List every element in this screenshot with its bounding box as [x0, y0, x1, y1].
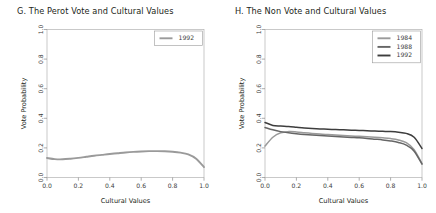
curve-1992	[47, 151, 204, 167]
panel-g-plot: 0.00.20.40.60.81.0 0.00.20.40.60.81.0 Cu…	[0, 0, 218, 213]
figure-container: G. The Perot Vote and Cultural Values 0.…	[0, 0, 436, 213]
x-tick-label: 0.6	[136, 182, 146, 189]
panel-h-ylabel: Vote Probability	[238, 78, 246, 130]
panel-h-xlabel: Cultural Values	[319, 197, 369, 205]
x-tick-label: 0.2	[74, 182, 84, 189]
legend-label-1988: 1988	[397, 43, 413, 50]
y-tick-label: 0.4	[255, 113, 262, 123]
legend-label-1984: 1984	[397, 34, 413, 41]
panel-g-x-ticks: 0.00.20.40.60.81.0	[42, 178, 209, 190]
x-tick-label: 0.4	[323, 182, 333, 189]
panel-h-plot: 0.00.20.40.60.81.0 0.00.20.40.60.81.0 Cu…	[218, 0, 436, 213]
panel-g: G. The Perot Vote and Cultural Values 0.…	[0, 0, 218, 213]
y-tick-label: 0.2	[37, 143, 44, 153]
legend-label-1992: 1992	[179, 34, 195, 41]
panel-h-y-ticks: 0.00.20.40.60.81.0	[255, 25, 265, 183]
panel-h-x-ticks: 0.00.20.40.60.81.0	[260, 178, 427, 190]
y-tick-label: 0.6	[255, 84, 262, 94]
y-tick-label: 0.6	[37, 84, 44, 94]
curve-1988	[265, 127, 422, 164]
panel-g-ylabel: Vote Probability	[20, 78, 28, 130]
x-tick-label: 1.0	[417, 182, 427, 189]
y-tick-label: 0.0	[37, 173, 44, 183]
panel-h-curves	[265, 122, 422, 164]
y-tick-label: 0.8	[255, 54, 262, 64]
y-tick-label: 0.2	[255, 143, 262, 153]
panel-g-y-ticks: 0.00.20.40.60.81.0	[37, 25, 47, 183]
panel-g-curves	[47, 151, 204, 167]
y-tick-label: 1.0	[255, 25, 262, 35]
x-tick-label: 0.4	[105, 182, 115, 189]
panel-h: H. The Non Vote and Cultural Values 0.00…	[218, 0, 436, 213]
y-tick-label: 0.4	[37, 113, 44, 123]
y-tick-label: 0.0	[255, 173, 262, 183]
x-tick-label: 0.8	[386, 182, 396, 189]
panel-g-xlabel: Cultural Values	[101, 197, 151, 205]
x-tick-label: 0.2	[292, 182, 302, 189]
x-tick-label: 0.8	[168, 182, 178, 189]
legend-label-1992: 1992	[397, 51, 413, 58]
x-tick-label: 1.0	[199, 182, 209, 189]
y-tick-label: 0.8	[37, 54, 44, 64]
panel-h-legend: 198419881992	[373, 31, 421, 63]
panel-g-legend: 1992	[155, 31, 203, 46]
x-tick-label: 0.6	[354, 182, 364, 189]
y-tick-label: 1.0	[37, 25, 44, 35]
panel-g-frame	[47, 30, 204, 178]
